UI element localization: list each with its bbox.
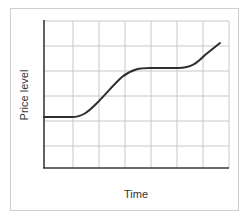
x-axis-label: Time bbox=[124, 188, 148, 200]
grid-lines bbox=[44, 21, 229, 168]
y-axis-label: Price level bbox=[18, 70, 30, 121]
price-level-curve bbox=[44, 43, 220, 117]
chart-plot-area bbox=[0, 0, 245, 223]
